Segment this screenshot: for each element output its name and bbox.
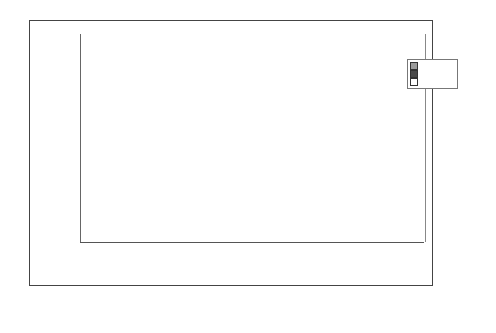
plot-area — [80, 34, 426, 242]
legend-item-1000 — [410, 62, 455, 70]
x-axis — [80, 242, 424, 243]
legend-item-10000 — [410, 70, 455, 78]
legend-swatch — [410, 78, 418, 86]
legend-item-100000 — [410, 78, 455, 86]
legend-swatch — [410, 62, 418, 70]
legend — [407, 59, 458, 89]
legend-swatch — [410, 70, 418, 78]
